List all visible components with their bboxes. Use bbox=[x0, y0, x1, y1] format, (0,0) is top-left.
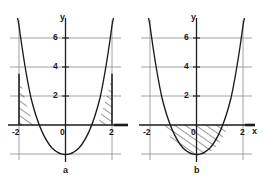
panel-a-plot bbox=[0, 0, 131, 180]
panel-b-xtick-neg2: -2 bbox=[143, 128, 150, 137]
panel-a-ytick-4: 4 bbox=[53, 62, 58, 71]
panel-b-ytick-2: 2 bbox=[184, 91, 189, 100]
panel-a-caption: a bbox=[63, 166, 68, 175]
panel-b-x-axis-label: x bbox=[252, 127, 257, 136]
panel-b-plot bbox=[131, 0, 262, 180]
panel-b-caption: b bbox=[194, 166, 199, 175]
figure-two-parabola-panels: y 6 4 2 -2 0 2 a bbox=[0, 0, 263, 180]
panel-b-ytick-6: 6 bbox=[184, 33, 189, 42]
panel-a-ytick-6: 6 bbox=[53, 33, 58, 42]
panel-a-xtick-neg2: -2 bbox=[12, 128, 19, 137]
panel-a: y 6 4 2 -2 0 2 a bbox=[0, 0, 131, 180]
panel-b-xtick-2: 2 bbox=[240, 128, 245, 137]
panel-a-xtick-0: 0 bbox=[60, 128, 65, 137]
panel-b: y 6 4 2 -2 0 2 x b bbox=[131, 0, 262, 180]
panel-b-y-axis-label: y bbox=[191, 13, 196, 22]
panel-a-ytick-2: 2 bbox=[53, 91, 58, 100]
panel-a-xtick-2: 2 bbox=[109, 128, 114, 137]
panel-a-y-axis-label: y bbox=[60, 13, 65, 22]
panel-b-xtick-0: 0 bbox=[191, 128, 196, 137]
panel-b-ytick-4: 4 bbox=[184, 62, 189, 71]
